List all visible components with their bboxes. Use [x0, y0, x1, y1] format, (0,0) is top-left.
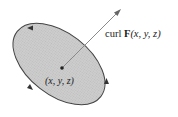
- surface: [0, 7, 120, 117]
- boundary-arrow-icon: [27, 84, 33, 90]
- curl-prefix: curl: [105, 28, 124, 39]
- surface-ellipse: [0, 7, 120, 117]
- curl-args: (x, y, z): [130, 28, 160, 39]
- curl-label: curl F(x, y, z): [105, 29, 161, 40]
- diagram-canvas: curl F(x, y, z) (x, y, z): [0, 0, 178, 117]
- diagram-svg: [0, 0, 178, 117]
- center-point-dot: [60, 66, 64, 70]
- point-label: (x, y, z): [45, 76, 74, 86]
